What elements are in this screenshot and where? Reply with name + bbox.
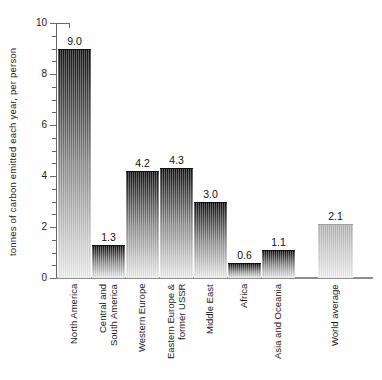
y-axis-minor-tick — [52, 138, 56, 139]
y-axis-top-cap-end — [69, 23, 70, 28]
y-axis-tick-label: 2 — [27, 221, 47, 233]
x-axis-label-asia-and-oceania: Asia and Oceania — [272, 284, 285, 376]
x-axis-label-africa: Africa — [238, 284, 251, 376]
y-axis-tick-label: 8 — [27, 68, 47, 80]
y-axis-minor-tick — [52, 214, 56, 215]
x-axis-label-middle-east: Middle East — [204, 284, 217, 376]
y-axis-minor-tick — [52, 151, 56, 152]
y-axis-minor-tick — [52, 163, 56, 164]
bar-value-africa: 0.6 — [222, 249, 267, 261]
y-axis-tick-label: 0 — [27, 272, 47, 284]
x-axis-label-north-america: North America — [68, 284, 81, 376]
y-axis-minor-tick — [52, 253, 56, 254]
x-axis-label-eastern-europe-former-ussr: Eastern Europe & former USSR — [165, 284, 189, 376]
y-axis-minor-tick — [52, 265, 56, 266]
x-axis-label-world-average: World average — [329, 284, 342, 376]
bar-central-and-south-america — [92, 245, 125, 278]
bar-value-asia-and-oceania: 1.1 — [256, 236, 301, 248]
y-axis-title: tonnes of carbon emitted each year, per … — [7, 25, 21, 278]
y-axis-minor-tick — [52, 61, 56, 62]
bar-eastern-europe-former-ussr — [160, 168, 193, 278]
y-axis-minor-tick — [52, 240, 56, 241]
bar-value-eastern-europe-former-ussr: 4.3 — [154, 154, 199, 166]
y-axis-top-cap — [56, 23, 69, 24]
carbon-emissions-bar-chart: tonnes of carbon emitted each year, per … — [0, 0, 382, 380]
y-axis-minor-tick — [52, 49, 56, 50]
y-axis-major-tick — [50, 227, 56, 228]
y-axis-tick-label: 10 — [27, 17, 47, 29]
x-axis-label-central-and-south-america: Central and South America — [97, 284, 121, 376]
bar-value-middle-east: 3.0 — [188, 188, 233, 200]
y-axis-line — [56, 23, 57, 278]
y-axis-major-tick — [50, 23, 56, 24]
bar-value-world-average: 2.1 — [312, 210, 359, 222]
y-axis-minor-tick — [52, 87, 56, 88]
bar-north-america — [58, 49, 91, 279]
bar-asia-and-oceania — [262, 250, 295, 278]
y-axis-minor-tick — [52, 202, 56, 203]
bar-value-central-and-south-america: 1.3 — [86, 231, 131, 243]
x-axis-label-western-europe: Western Europe — [136, 284, 149, 376]
y-axis-tick-label: 6 — [27, 119, 47, 131]
y-axis-major-tick — [50, 125, 56, 126]
bar-western-europe — [126, 171, 159, 278]
y-axis-minor-tick — [52, 112, 56, 113]
y-axis-major-tick — [50, 74, 56, 75]
bar-africa — [228, 263, 261, 278]
bar-value-north-america: 9.0 — [52, 35, 97, 47]
bar-world-average — [318, 224, 353, 278]
y-axis-major-tick — [50, 278, 56, 279]
y-axis-minor-tick — [52, 100, 56, 101]
y-axis-major-tick — [50, 176, 56, 177]
bar-middle-east — [194, 202, 227, 279]
y-axis-minor-tick — [52, 189, 56, 190]
y-axis-tick-label: 4 — [27, 170, 47, 182]
